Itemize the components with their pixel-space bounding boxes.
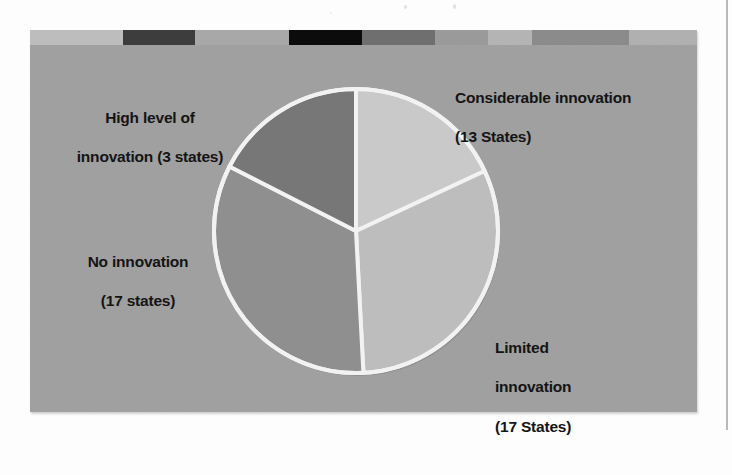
slice-label-line: Considerable innovation — [455, 88, 631, 108]
slice-label-count: (17 states) — [38, 291, 238, 311]
slice-label-line: No innovation — [38, 252, 238, 272]
slice-label-no-innovation: No innovation (17 states) — [38, 232, 238, 331]
slice-label-limited-innovation: Limited innovation (17 States) — [495, 318, 571, 457]
figure-panel: Considerable innovation (13 States) High… — [30, 30, 697, 412]
slice-label-high-level-innovation: High level of innovation (3 states) — [40, 88, 260, 187]
slice-label-line: Limited — [495, 338, 571, 358]
slice-label-count: innovation (3 states) — [40, 147, 260, 167]
slice-label-considerable-innovation: Considerable innovation (13 States) — [455, 68, 631, 167]
slice-label-line: innovation — [495, 377, 571, 397]
slice-label-count: (13 States) — [455, 127, 631, 147]
scan-speckle — [330, 12, 332, 14]
scan-page: Considerable innovation (13 States) High… — [0, 0, 732, 475]
scan-speckle — [404, 5, 407, 9]
scan-speckle — [453, 4, 456, 9]
slice-label-line: High level of — [40, 108, 260, 128]
page-gutter-rule — [726, 0, 728, 430]
slice-label-count: (17 States) — [495, 417, 571, 437]
